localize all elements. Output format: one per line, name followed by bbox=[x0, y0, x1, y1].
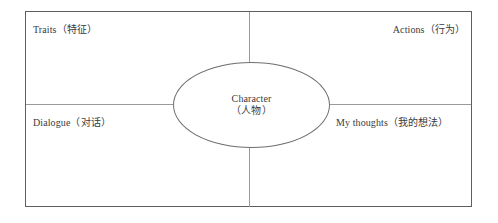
quadrant-label-traits: Traits（特征） bbox=[33, 21, 97, 36]
center-title-en: Character bbox=[232, 93, 272, 105]
vertical-divider-top bbox=[249, 12, 250, 63]
quadrant-label-dialogue: Dialogue（对话） bbox=[33, 114, 111, 129]
character-graphic-organizer: Traits（特征） Actions（行为） Dialogue（对话） My t… bbox=[0, 0, 498, 223]
horizontal-divider-left bbox=[26, 104, 174, 105]
center-ellipse: Character （人物） bbox=[173, 62, 330, 148]
center-title-zh: （人物） bbox=[231, 105, 271, 117]
quadrant-label-actions: Actions（行为） bbox=[393, 21, 465, 36]
vertical-divider-bottom bbox=[249, 146, 250, 207]
quadrant-label-my-thoughts: My thoughts（我的想法） bbox=[336, 114, 449, 129]
horizontal-divider-right bbox=[329, 104, 471, 105]
